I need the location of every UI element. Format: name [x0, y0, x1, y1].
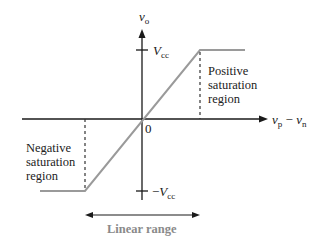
linear-range-label: Linear range — [107, 222, 177, 236]
negative-region-line2: saturation — [26, 155, 75, 169]
y-axis-label-main: v — [139, 9, 145, 24]
y-axis-arrow-icon — [139, 29, 146, 38]
linear-range-left-arrowhead-icon — [85, 212, 93, 218]
linear-range-right-arrowhead-icon — [192, 212, 200, 218]
x-axis-label-a-sub: p — [278, 119, 283, 129]
vcc-main: V — [153, 43, 161, 58]
negative-saturation-label: Negative saturation region — [26, 141, 75, 183]
vcc-label: Vcc — [153, 44, 169, 59]
neg-vcc-label: −Vcc — [152, 185, 175, 200]
x-axis-label-b-sub: n — [302, 119, 307, 129]
y-axis-label: vo — [139, 10, 149, 25]
positive-region-line1: Positive — [208, 64, 257, 78]
vcc-sub: cc — [161, 50, 169, 60]
positive-saturation-label: Positive saturation region — [208, 64, 257, 106]
positive-region-line3: region — [208, 92, 257, 106]
negative-region-line1: Negative — [26, 141, 75, 155]
y-axis-label-sub: o — [145, 16, 150, 26]
x-axis-label-a-main: v — [272, 112, 278, 127]
negative-region-line3: region — [26, 169, 75, 183]
positive-region-line2: saturation — [208, 78, 257, 92]
x-axis-label: vp − vn — [272, 113, 306, 128]
neg-vcc-sub: cc — [167, 191, 175, 201]
x-axis-minus: − — [286, 112, 293, 127]
x-axis-arrow-icon — [259, 116, 268, 123]
origin-label: 0 — [145, 122, 152, 136]
